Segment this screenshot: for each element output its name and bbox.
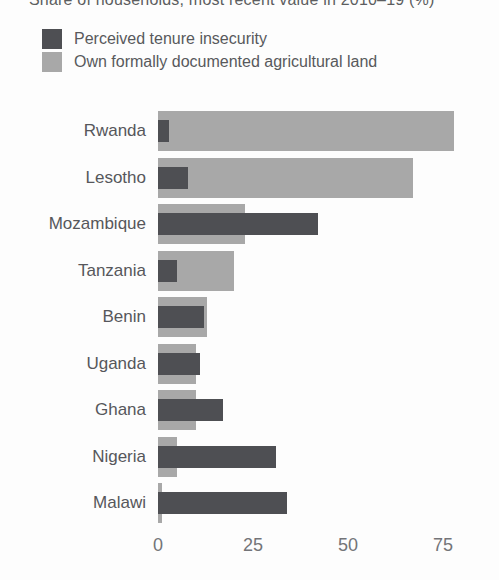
- bar-tenure-insecurity: [158, 353, 200, 375]
- country-label: Malawi: [0, 493, 158, 513]
- x-axis-tick-label: 0: [153, 529, 163, 561]
- bar-group: [158, 201, 499, 248]
- chart-row: Benin: [0, 294, 499, 341]
- bar-group: [158, 155, 499, 202]
- bar-chart-rows: RwandaLesothoMozambiqueTanzaniaBeninUgan…: [0, 108, 499, 527]
- bar-tenure-insecurity: [158, 399, 223, 421]
- country-label: Tanzania: [0, 261, 158, 281]
- country-label: Rwanda: [0, 121, 158, 141]
- chart-row: Uganda: [0, 341, 499, 388]
- chart-row: Nigeria: [0, 434, 499, 481]
- bar-group: [158, 434, 499, 481]
- bar-tenure-insecurity: [158, 213, 318, 235]
- legend-swatch-documented: [42, 52, 62, 72]
- country-label: Mozambique: [0, 214, 158, 234]
- bar-tenure-insecurity: [158, 120, 169, 142]
- legend: Perceived tenure insecurity Own formally…: [42, 29, 377, 75]
- bar-tenure-insecurity: [158, 167, 188, 189]
- country-label: Benin: [0, 307, 158, 327]
- chart-row: Rwanda: [0, 108, 499, 155]
- bar-documented-land: [158, 111, 454, 151]
- bar-group: [158, 294, 499, 341]
- bar-group: [158, 387, 499, 434]
- x-axis-tick-label: 75: [433, 529, 453, 561]
- bar-documented-land: [158, 158, 413, 198]
- chart-subtitle: Share of households, most recent value i…: [29, 0, 435, 9]
- country-label: Lesotho: [0, 168, 158, 188]
- legend-swatch-insecurity: [42, 29, 62, 49]
- country-label: Uganda: [0, 354, 158, 374]
- bar-tenure-insecurity: [158, 492, 287, 514]
- chart-row: Lesotho: [0, 155, 499, 202]
- chart-row: Ghana: [0, 387, 499, 434]
- legend-item-documented: Own formally documented agricultural lan…: [42, 52, 377, 72]
- chart-row: Tanzania: [0, 248, 499, 295]
- chart-row: Mozambique: [0, 201, 499, 248]
- legend-item-insecurity: Perceived tenure insecurity: [42, 29, 377, 49]
- chart-figure: Share of households, most recent value i…: [0, 0, 499, 580]
- bar-tenure-insecurity: [158, 260, 177, 282]
- legend-label-documented: Own formally documented agricultural lan…: [74, 53, 377, 71]
- bar-group: [158, 108, 499, 155]
- bar-group: [158, 248, 499, 295]
- bar-group: [158, 480, 499, 527]
- bar-tenure-insecurity: [158, 446, 276, 468]
- x-axis-tick-label: 25: [243, 529, 263, 561]
- legend-label-insecurity: Perceived tenure insecurity: [74, 30, 267, 48]
- chart-row: Malawi: [0, 480, 499, 527]
- x-axis-tick-label: 50: [338, 529, 358, 561]
- bar-tenure-insecurity: [158, 306, 204, 328]
- bar-group: [158, 341, 499, 388]
- x-axis: 0255075: [158, 529, 499, 561]
- country-label: Nigeria: [0, 447, 158, 467]
- country-label: Ghana: [0, 400, 158, 420]
